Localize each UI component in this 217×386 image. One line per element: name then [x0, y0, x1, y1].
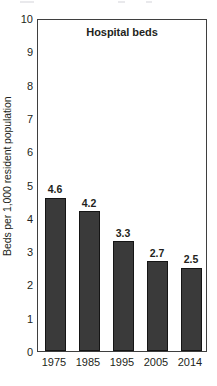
bar-value-label: 4.6: [36, 184, 75, 195]
bar-value-label: 2.5: [172, 254, 211, 265]
bar: [147, 261, 168, 351]
y-tick-label: 8: [14, 80, 33, 91]
bar-group: 2.7: [147, 20, 168, 351]
bar-value-label: 3.3: [104, 228, 143, 239]
bar: [79, 211, 100, 351]
y-axis-title-text: Beds per 1,000 resident population: [3, 96, 14, 255]
x-tick-label: 1975: [37, 357, 71, 368]
y-tick-label: 10: [14, 14, 33, 25]
y-tick-label: 1: [14, 313, 33, 324]
y-tick-label: 3: [14, 247, 33, 258]
bar: [45, 198, 66, 351]
bar-group: 2.5: [181, 20, 202, 351]
x-tick-label: 1995: [105, 357, 139, 368]
y-axis-tick-labels: 012345678910: [14, 0, 33, 386]
bar-group: 4.6: [45, 20, 66, 351]
y-tick-label: 2: [14, 280, 33, 291]
x-tick-label: 2014: [173, 357, 207, 368]
hospital-beds-bar-chart: Beds per 1,000 resident population 01234…: [0, 0, 217, 386]
bar: [181, 268, 202, 351]
y-tick-label: 6: [14, 147, 33, 158]
y-tick-label: 7: [14, 113, 33, 124]
x-tick-label: 2005: [139, 357, 173, 368]
y-tick-label: 4: [14, 213, 33, 224]
x-axis-tick-labels: 19751985199520052014: [37, 357, 207, 375]
bar-group: 4.2: [79, 20, 100, 351]
x-tick-label: 1985: [71, 357, 105, 368]
bars-layer: 4.64.23.32.72.5: [38, 20, 206, 351]
bar-group: 3.3: [113, 20, 134, 351]
plot-area: Hospital beds 4.64.23.32.72.5: [37, 19, 207, 352]
y-tick-label: 0: [14, 347, 33, 358]
y-tick-label: 5: [14, 180, 33, 191]
bar: [113, 241, 134, 351]
y-tick-label: 9: [14, 47, 33, 58]
bar-value-label: 4.2: [70, 198, 109, 209]
